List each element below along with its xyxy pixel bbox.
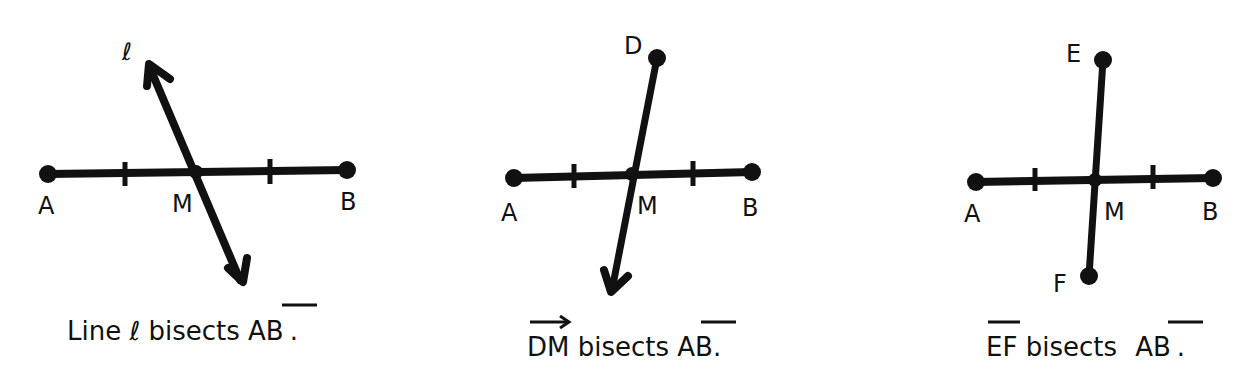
label-f: F: [1053, 270, 1067, 298]
point-b-dot: [743, 163, 761, 181]
caption-segment-bisects: EF bisects AB.: [986, 332, 1185, 362]
point-b-dot: [1204, 169, 1222, 187]
caption-line-bisects: Line ℓ bisects AB.: [67, 316, 298, 346]
label-l: ℓ: [121, 38, 132, 66]
point-a-dot: [967, 173, 985, 191]
ray-dm-notation: DM: [527, 332, 569, 362]
point-f-dot: [1080, 267, 1098, 285]
label-a: A: [964, 200, 981, 228]
label-m: M: [1104, 198, 1125, 226]
panel-segment-bisector: E F A M B EF bisects AB.: [964, 40, 1222, 362]
label-a: A: [38, 192, 55, 220]
segment-ab-notation: AB: [248, 316, 284, 346]
point-d-dot: [648, 49, 666, 67]
label-b: B: [1202, 198, 1218, 226]
segment-ef-notation: EF: [986, 332, 1017, 362]
label-b: B: [340, 188, 356, 216]
point-a-dot: [505, 169, 523, 187]
label-b: B: [742, 194, 758, 222]
point-a-dot: [39, 165, 57, 183]
segment-ef: [1089, 60, 1103, 276]
point-e-dot: [1094, 51, 1112, 69]
segment-ab-notation: AB: [677, 332, 713, 362]
panel-line-bisector: ℓ A M B Line ℓ bisects AB.: [38, 38, 356, 346]
label-a: A: [501, 199, 518, 227]
label-m: M: [637, 192, 658, 220]
bisector-diagrams: ℓ A M B Line ℓ bisects AB. D A M B DM bi…: [0, 0, 1254, 389]
point-b-dot: [338, 161, 356, 179]
label-m: M: [172, 190, 193, 218]
caption-ray-bisects: DM bisects AB.: [527, 332, 721, 362]
label-e: E: [1066, 40, 1081, 68]
segment-ab-notation: AB: [1135, 332, 1171, 362]
label-d: D: [624, 32, 642, 60]
panel-ray-bisector: D A M B DM bisects AB.: [501, 32, 761, 362]
